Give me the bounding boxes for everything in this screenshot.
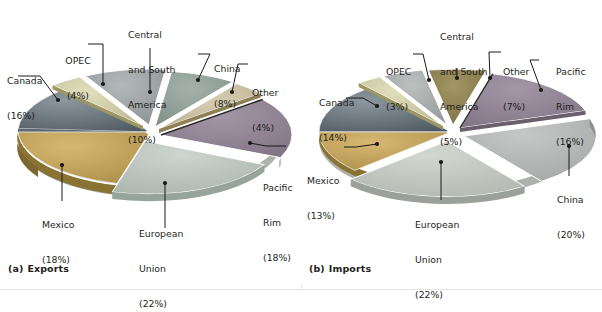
label-opec-pct: (3%)	[386, 101, 411, 113]
exports-caption: (a)Exports	[8, 263, 69, 274]
label-mexico-name: Mexico	[42, 219, 74, 231]
label-mexico-name: Mexico	[307, 175, 339, 187]
label-central-south-america: Central and South America (10%)	[128, 6, 175, 168]
label-eu-line1: European	[415, 219, 459, 231]
label-pacific-line1: Pacific	[556, 66, 586, 78]
label-central-south-america: Central and South America (5%)	[440, 8, 487, 170]
label-other: Other (7%)	[503, 43, 529, 136]
label-canada-name: Canada	[7, 75, 42, 87]
label-china: China (8%)	[214, 40, 241, 133]
label-csa-line2: and South	[128, 64, 175, 76]
label-canada-name: Canada	[319, 97, 354, 109]
label-opec: OPEC (4%)	[48, 32, 108, 125]
label-csa-line3: America	[440, 101, 487, 113]
imports-caption-index: (b)	[309, 263, 325, 274]
label-other-pct: (7%)	[503, 101, 529, 113]
label-csa-pct: (10%)	[128, 134, 175, 146]
label-csa-line1: Central	[440, 31, 487, 43]
label-other-name: Other	[252, 87, 278, 99]
label-china-pct: (8%)	[214, 98, 241, 110]
label-eu-pct: (22%)	[139, 298, 183, 310]
label-csa-line2: and South	[440, 66, 487, 78]
imports-panel: Canada (14%) OPEC (3%) Central and South…	[301, 0, 602, 290]
label-csa-pct: (5%)	[440, 136, 487, 148]
label-pacific-rim: Pacific Rim (16%)	[556, 43, 586, 171]
label-china-name: China	[214, 63, 241, 75]
label-eu-line1: European	[139, 228, 183, 240]
label-other-name: Other	[503, 66, 529, 78]
label-eu-line2: Union	[139, 263, 183, 275]
label-china: China (20%)	[557, 171, 585, 264]
label-china-name: China	[557, 194, 585, 206]
label-mexico: Mexico (18%)	[42, 196, 74, 289]
label-china-pct: (20%)	[557, 229, 585, 241]
label-opec: OPEC (3%)	[386, 43, 411, 136]
label-pacific-line2: Rim	[556, 101, 586, 113]
label-pacific-rim: Pacific Rim (18%)	[263, 159, 293, 287]
label-european-union: European Union (22%)	[139, 205, 183, 312]
label-canada-pct: (16%)	[7, 110, 42, 122]
label-csa-line3: America	[128, 99, 175, 111]
exports-caption-index: (a)	[8, 263, 23, 274]
label-pacific-line1: Pacific	[263, 182, 293, 194]
label-mexico-pct: (13%)	[307, 210, 339, 222]
label-opec-pct: (4%)	[48, 90, 108, 102]
label-pacific-line2: Rim	[263, 217, 293, 229]
exports-panel: Canada (16%) OPEC (4%) Central and South…	[0, 0, 301, 290]
label-european-union: European Union (22%)	[415, 196, 459, 312]
label-other: Other (4%)	[252, 64, 278, 157]
label-opec-name: OPEC	[386, 66, 411, 78]
imports-caption-text: Imports	[329, 263, 371, 274]
label-pacific-pct: (16%)	[556, 136, 586, 148]
exports-caption-text: Exports	[27, 263, 69, 274]
label-mexico: Mexico (13%)	[307, 152, 339, 245]
label-opec-name: OPEC	[48, 55, 108, 67]
figure-mid-rule	[301, 284, 302, 290]
label-canada-pct: (14%)	[319, 132, 354, 144]
label-pacific-pct: (18%)	[263, 252, 293, 264]
label-other-pct: (4%)	[252, 122, 278, 134]
imports-caption: (b)Imports	[309, 263, 371, 274]
label-csa-line1: Central	[128, 29, 175, 41]
label-eu-pct: (22%)	[415, 289, 459, 301]
label-eu-line2: Union	[415, 254, 459, 266]
label-canada: Canada (16%)	[7, 52, 42, 145]
